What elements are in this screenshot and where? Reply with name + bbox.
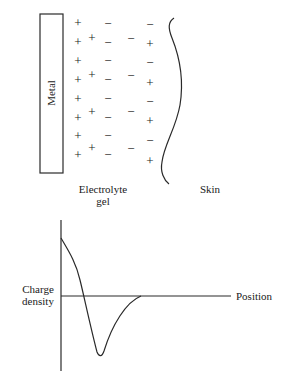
negative-charge-gel-negative-inner: − (104, 16, 111, 31)
positive-charge-skin-boundary: + (146, 113, 153, 128)
positive-charge-metal-surface-positive: + (74, 34, 81, 49)
positive-charge-gel-positive: + (88, 104, 95, 119)
negative-charge-gel-negative-outer: − (127, 31, 134, 46)
negative-charge-gel-negative-outer: − (127, 141, 134, 156)
negative-charge-gel-negative-outer: − (127, 104, 134, 119)
charge-layer: ++++++++++++−−−−−−−−−−−−−+−+−+−+ (74, 15, 153, 168)
positive-charge-metal-surface-positive: + (74, 128, 81, 143)
negative-charge-skin-boundary: − (146, 55, 153, 70)
skin-label: Skin (200, 183, 221, 195)
positive-charge-metal-surface-positive: + (74, 72, 81, 87)
diagram-canvas: Metal ++++++++++++−−−−−−−−−−−−−+−+−+−+ E… (0, 0, 286, 385)
positive-charge-skin-boundary: + (146, 75, 153, 90)
positive-charge-gel-positive: + (88, 67, 95, 82)
negative-charge-gel-negative-inner: − (104, 147, 111, 162)
negative-charge-gel-negative-inner: − (104, 128, 111, 143)
y-axis-label-line2: density (22, 295, 54, 307)
positive-charge-skin-boundary: + (146, 36, 153, 51)
positive-charge-metal-surface-positive: + (74, 147, 81, 162)
positive-charge-gel-positive: + (88, 30, 95, 45)
positive-charge-metal-surface-positive: + (74, 53, 81, 68)
negative-charge-gel-negative-inner: − (104, 72, 111, 87)
electrolyte-gel-label-line2: gel (96, 195, 109, 207)
x-axis-label: Position (236, 290, 273, 302)
positive-charge-skin-boundary: + (146, 153, 153, 168)
metal-label: Metal (45, 80, 57, 106)
skin-boundary-curve (161, 18, 181, 184)
negative-charge-gel-negative-inner: − (104, 91, 111, 106)
y-axis-label-line1: Charge (22, 283, 54, 295)
negative-charge-skin-boundary: − (146, 17, 153, 32)
negative-charge-skin-boundary: − (146, 94, 153, 109)
negative-charge-gel-negative-inner: − (104, 110, 111, 125)
electrolyte-gel-label-line1: Electrolyte (79, 183, 127, 195)
positive-charge-gel-positive: + (88, 140, 95, 155)
negative-charge-gel-negative-inner: − (104, 53, 111, 68)
positive-charge-metal-surface-positive: + (74, 110, 81, 125)
charge-density-curve (61, 238, 141, 356)
positive-charge-metal-surface-positive: + (74, 91, 81, 106)
negative-charge-gel-negative-outer: − (127, 68, 134, 83)
positive-charge-metal-surface-positive: + (74, 15, 81, 30)
negative-charge-skin-boundary: − (146, 133, 153, 148)
negative-charge-gel-negative-inner: − (104, 35, 111, 50)
